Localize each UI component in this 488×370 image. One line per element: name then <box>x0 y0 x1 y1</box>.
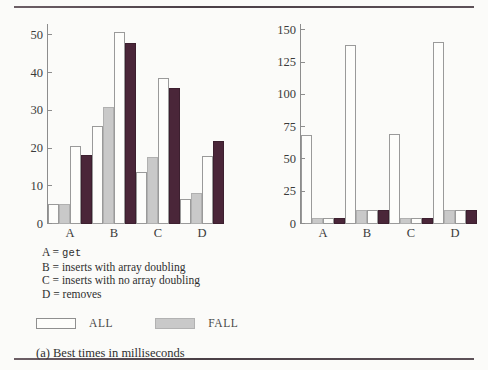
chart-b-bar-groups: ABCD <box>301 24 472 224</box>
x-axis-tick-label: D <box>450 227 459 240</box>
bar-fall-b <box>125 43 136 224</box>
bar-llavs-b <box>356 210 367 224</box>
chart-a-bar-groups: ABCD <box>48 24 219 224</box>
legend-swatch-all-icon <box>36 318 76 329</box>
bar-group: B <box>345 24 389 224</box>
bar-group: C <box>389 24 433 224</box>
bar-fall-d <box>213 141 224 224</box>
chart-a-plot-area: ABCD 01020304050 <box>47 24 219 224</box>
bar-all-b <box>92 126 103 224</box>
y-axis-tick-mark <box>47 223 52 224</box>
key-symbol: A = <box>42 246 62 258</box>
panels-container: ABCD 01020304050 A = getB = inserts with… <box>0 14 488 346</box>
x-axis-tick-label: B <box>363 227 371 240</box>
y-axis-tick-label: 50 <box>31 29 44 42</box>
y-axis-tick-mark <box>300 223 305 224</box>
y-axis-tick-label: 0 <box>37 218 43 231</box>
y-axis-tick-label: 100 <box>277 89 296 102</box>
bar-llav-a <box>323 218 334 224</box>
x-axis-tick-label: D <box>197 227 206 240</box>
y-axis-tick-label: 0 <box>290 218 296 231</box>
legend-item-fall: FALL <box>155 317 238 329</box>
bar-llavs-d <box>444 210 455 224</box>
bar-llavs-c <box>422 218 433 224</box>
y-axis-tick-mark <box>300 191 305 192</box>
bar-fall-a <box>59 204 70 224</box>
y-axis-tick-mark <box>47 72 52 73</box>
bar-group: C <box>136 24 180 224</box>
panel-b: ABCD 0255075100125150 A = average insert… <box>244 14 488 346</box>
bar-group: D <box>433 24 477 224</box>
chart-a-caption: (a) Best times in milliseconds <box>36 346 185 361</box>
chart-a-key-row: D = removes <box>42 288 200 302</box>
bar-llav-b <box>345 45 356 224</box>
key-symbol: B = <box>42 261 62 273</box>
y-axis-tick-mark <box>300 29 305 30</box>
bar-llav-b <box>367 210 378 224</box>
chart-a-key-row: C = inserts with no array doubling <box>42 274 200 288</box>
bar-all-a <box>70 146 81 224</box>
bar-all-d <box>180 199 191 224</box>
chart-b-plot-area: ABCD 0255075100125150 <box>300 24 472 224</box>
x-axis-tick-label: A <box>318 227 327 240</box>
y-axis-tick-mark <box>47 110 52 111</box>
y-axis-tick-mark <box>47 185 52 186</box>
bar-group: A <box>301 24 345 224</box>
y-axis-tick-mark <box>47 148 52 149</box>
y-axis-tick-label: 75 <box>284 121 297 134</box>
bar-group: A <box>48 24 92 224</box>
y-axis-tick-label: 40 <box>31 67 44 80</box>
y-axis-tick-label: 30 <box>31 105 44 118</box>
y-axis-tick-label: 50 <box>284 153 297 166</box>
x-axis-tick-label: A <box>65 227 74 240</box>
bar-all-a <box>48 204 59 224</box>
bar-llavs-b <box>378 210 389 224</box>
bar-llavs-a <box>312 218 323 224</box>
key-description: inserts with no array doubling <box>62 274 200 286</box>
key-symbol: D = <box>42 288 63 300</box>
x-axis-tick-label: B <box>110 227 118 240</box>
y-axis-tick-mark <box>300 126 305 127</box>
chart-a-key-row: B = inserts with array doubling <box>42 261 200 275</box>
legend-item-all: ALL <box>36 317 113 329</box>
figure-page: ABCD 01020304050 A = getB = inserts with… <box>0 0 488 370</box>
key-description: removes <box>63 288 102 300</box>
key-description: get <box>62 247 82 259</box>
bar-llavs-d <box>466 210 477 224</box>
y-axis-tick-label: 10 <box>31 180 44 193</box>
key-description: inserts with array doubling <box>62 261 186 273</box>
bar-fall-c <box>147 157 158 224</box>
bar-fall-d <box>191 193 202 224</box>
x-axis-tick-label: C <box>407 227 415 240</box>
y-axis-tick-label: 125 <box>277 56 296 69</box>
bar-all-c <box>158 78 169 224</box>
y-axis-tick-mark <box>300 94 305 95</box>
legend-label-fall: FALL <box>208 317 238 329</box>
y-axis-tick-mark <box>300 158 305 159</box>
bar-all-b <box>114 32 125 224</box>
top-rule <box>14 6 474 8</box>
x-axis-tick-label: C <box>154 227 162 240</box>
bar-fall-b <box>103 107 114 224</box>
y-axis-tick-label: 25 <box>284 186 297 199</box>
legend-label-all: ALL <box>89 317 113 329</box>
chart-a-legend: ALL FALL <box>36 317 241 329</box>
bar-llav-a <box>301 135 312 224</box>
legend-swatch-fall-icon <box>155 318 195 329</box>
bar-fall-c <box>169 88 180 224</box>
chart-a-key-list: A = getB = inserts with array doublingC … <box>42 246 200 301</box>
key-symbol: C = <box>42 274 62 286</box>
bar-llav-c <box>411 218 422 224</box>
y-axis-tick-mark <box>47 34 52 35</box>
bar-llav-c <box>389 134 400 224</box>
bar-llav-d <box>455 210 466 224</box>
bar-llavs-c <box>400 218 411 224</box>
bar-all-c <box>136 172 147 224</box>
bar-fall-a <box>81 155 92 224</box>
y-axis-tick-mark <box>300 62 305 63</box>
y-axis-tick-label: 150 <box>277 24 296 37</box>
panel-a: ABCD 01020304050 A = getB = inserts with… <box>0 14 244 346</box>
bar-llavs-a <box>334 218 345 224</box>
bar-all-d <box>202 156 213 224</box>
chart-a-key-row: A = get <box>42 246 200 261</box>
